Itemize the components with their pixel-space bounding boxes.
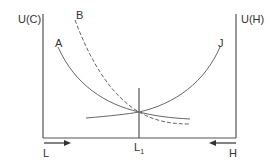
curve-b	[75, 20, 190, 124]
curve-a	[58, 47, 190, 119]
bottom-left-label: L	[43, 148, 49, 159]
curve-j-label: J	[218, 38, 224, 49]
curve-j	[86, 47, 220, 118]
curve-b-label: B	[76, 10, 83, 21]
right-axis-label: U(H)	[241, 14, 264, 25]
bottom-right-label: H	[229, 148, 237, 159]
diagram-canvas	[0, 0, 277, 161]
arrow-left-head	[209, 140, 216, 146]
left-axis-label: U(C)	[18, 14, 41, 25]
l1-label: L1	[134, 142, 144, 155]
curve-a-label: A	[55, 38, 62, 49]
arrow-right-head	[64, 140, 71, 146]
l1-label-subscript: 1	[140, 148, 144, 155]
